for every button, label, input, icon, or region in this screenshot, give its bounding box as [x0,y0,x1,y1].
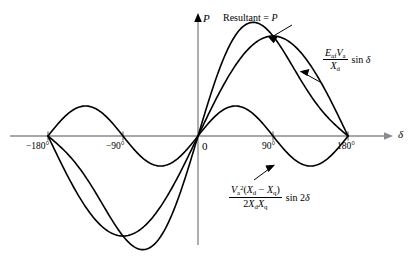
reluctance-power-trig: sin 2δ [282,193,310,203]
x-tick-label-90: 90° [262,142,275,152]
excitation-power-denominator: Xd [323,60,348,72]
x-tick-label-minus180: −180° [26,142,49,152]
reluctance-power-denominator: 2XdXq [229,198,282,210]
reluctance-power-numerator: Va2(Xd − Xq) [229,185,282,198]
leader-resultant [269,25,292,42]
y-axis-arrowhead [194,13,202,22]
leader-line-group [254,25,320,180]
excitation-power-trig: sin δ [348,55,371,65]
leader-reluctance [254,165,274,180]
reluctance-power-annotation: Va2(Xd − Xq) 2XdXq sin 2δ [229,185,310,210]
reluctance-power-fraction: Va2(Xd − Xq) 2XdXq [229,185,282,210]
excitation-power-numerator: EafVa [323,48,348,60]
excitation-power-fraction: EafVa Xd [323,48,348,73]
x-tick-label-180: 180° [337,142,355,152]
x-tick-label-minus90: −90° [106,142,125,152]
chart-canvas [0,0,418,257]
x-axis-arrowhead [384,132,393,140]
excitation-power-annotation: EafVa Xd sin δ [323,48,370,73]
power-angle-characteristic-figure: δ P −180° −90° 0 90° 180° Resultant = P … [0,0,418,257]
resultant-annotation-text: Resultant = P [223,12,278,23]
resultant-annotation: Resultant = P [223,13,278,23]
x-axis-label: δ [398,129,403,140]
y-axis-label: P [203,13,210,24]
origin-label: 0 [202,141,208,152]
